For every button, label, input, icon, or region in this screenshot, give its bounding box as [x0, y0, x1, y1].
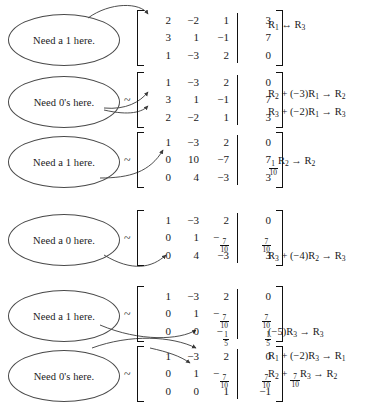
matrix-2: 1 −3 2 0 3 1 −1 7 2 −2 1 3	[137, 72, 283, 128]
matrix-4: 1 −3 2 0 0 1 −710 710 0 4 −3 3	[137, 210, 283, 266]
operation-label: R2 + (−3)R1 → R2	[268, 86, 346, 104]
operation-label: 110R2 → R2	[268, 153, 315, 176]
cell-r2c2: 1	[173, 305, 201, 322]
divider-spacer	[231, 323, 243, 340]
augment-divider-5	[231, 288, 243, 305]
operation-label: R1 ↔ R3	[268, 17, 305, 35]
cell-r2c1: 0	[147, 151, 173, 168]
tilde-4: ~	[124, 231, 131, 246]
operation-label: (−5)R3 → R3	[268, 324, 324, 342]
matrix-grid-6: 1 −3 2 0 0 1 −710 710 0 0 1 −1	[144, 346, 276, 402]
cell-r1c3: 1	[201, 12, 231, 29]
bracket-left-6	[137, 346, 144, 402]
bracket-left-2	[137, 72, 144, 128]
cell-r2c4-fraction: 710	[243, 229, 273, 246]
cell-r1c2: −3	[173, 288, 201, 305]
cell-r3c2: 0	[173, 383, 201, 400]
cell-r3c1: 0	[147, 247, 173, 264]
cell-r1c3: 2	[201, 288, 231, 305]
cell-r1c3: 2	[201, 134, 231, 151]
cell-r1c1: 1	[147, 288, 173, 305]
augment-divider-2	[231, 74, 243, 91]
augment-divider-1	[231, 12, 243, 29]
augment-divider-4	[231, 212, 243, 229]
matrix-grid-3: 1 −3 2 0 0 10 −7 7 0 4 −3 3	[144, 132, 276, 188]
cell-r3c2: −3	[173, 47, 201, 64]
operations-4: R3 + (−4)R2 → R3	[268, 248, 346, 266]
callout-label-3: Need a 1 here.	[8, 136, 120, 188]
bracket-left-5	[137, 286, 144, 342]
cell-r1c4: 0	[243, 212, 273, 229]
divider-spacer	[231, 47, 243, 64]
cell-r3c4: 0	[243, 47, 273, 64]
tilde-5: ~	[124, 307, 131, 322]
cell-r1c3: 2	[201, 348, 231, 365]
cell-r3c1: 1	[147, 47, 173, 64]
divider-spacer	[231, 91, 243, 108]
cell-r3c1: 0	[147, 383, 173, 400]
cell-r2c3-fraction: −710	[201, 305, 231, 322]
cell-r2c3: −1	[201, 29, 231, 46]
cell-r3c3: −3	[201, 169, 231, 186]
callout-2: Need 0's here.	[8, 76, 120, 128]
matrix-5: 1 −3 2 0 0 1 −710 710 0 0 −15 15	[137, 286, 283, 342]
divider-spacer	[231, 151, 243, 168]
operation-label: R1 + (−2)R3 → R1	[268, 348, 346, 366]
cell-r2c1: 0	[147, 305, 173, 322]
callout-label-4: Need a 0 here.	[8, 214, 120, 266]
cell-r2c3: −1	[201, 91, 231, 108]
cell-r2c3: −7	[201, 151, 231, 168]
cell-r1c4: 0	[243, 134, 273, 151]
augment-divider-6	[231, 348, 243, 365]
cell-r2c1: 3	[147, 91, 173, 108]
cell-r2c2: 1	[173, 229, 201, 246]
cell-r2c3-fraction: −710	[201, 365, 231, 382]
callout-label-1: Need a 1 here.	[8, 14, 120, 66]
cell-r1c1: 2	[147, 12, 173, 29]
cell-r3c2: 0	[173, 323, 201, 340]
divider-spacer	[231, 365, 243, 382]
callout-5: Need a 1 here.	[8, 290, 120, 342]
cell-r3c3: −3	[201, 247, 231, 264]
matrix-3: 1 −3 2 0 0 10 −7 7 0 4 −3 3	[137, 132, 283, 188]
callout-label-6: Need 0's here.	[8, 350, 120, 402]
divider-spacer	[231, 305, 243, 322]
matrix-6: 1 −3 2 0 0 1 −710 710 0 0 1 −1	[137, 346, 283, 402]
bracket-left-4	[137, 210, 144, 266]
cell-r2c2: 1	[173, 91, 201, 108]
augment-divider-3	[231, 134, 243, 151]
cell-r3c2: 4	[173, 247, 201, 264]
callout-4: Need a 0 here.	[8, 214, 120, 266]
cell-r3c1: 2	[147, 109, 173, 126]
divider-spacer	[231, 247, 243, 264]
callout-label-5: Need a 1 here.	[8, 290, 120, 342]
operation-label: R2 + 710R3 → R2	[268, 366, 346, 389]
operation-label: R3 + (−4)R2 → R3	[268, 248, 346, 266]
cell-r2c1: 0	[147, 229, 173, 246]
operation-label: R3 + (−2)R1 → R3	[268, 104, 346, 122]
cell-r2c1: 3	[147, 29, 173, 46]
callout-1: Need a 1 here.	[8, 14, 120, 66]
cell-r2c3-fraction: −710	[201, 229, 231, 246]
callout-label-2: Need 0's here.	[8, 76, 120, 128]
cell-r3c3: 2	[201, 47, 231, 64]
cell-r1c4: 0	[243, 288, 273, 305]
matrix-grid-2: 1 −3 2 0 3 1 −1 7 2 −2 1 3	[144, 72, 276, 128]
matrix-1: 2 −2 1 3 3 1 −1 7 1 −3 2 0	[137, 10, 283, 66]
cell-r1c2: −3	[173, 134, 201, 151]
operations-3: 110R2 → R2	[268, 153, 315, 176]
cell-r2c2: 1	[173, 29, 201, 46]
cell-r1c2: −3	[173, 348, 201, 365]
callout-3: Need a 1 here.	[8, 136, 120, 188]
cell-r3c2: −2	[173, 109, 201, 126]
divider-spacer	[231, 229, 243, 246]
operations-6: R1 + (−2)R3 → R1 R2 + 710R3 → R2	[268, 348, 346, 389]
cell-r2c2: 10	[173, 151, 201, 168]
cell-r3c3-fraction: −15	[201, 323, 231, 340]
cell-r1c1: 1	[147, 74, 173, 91]
tilde-3: ~	[124, 153, 131, 168]
operations-5: (−5)R3 → R3	[268, 324, 324, 342]
cell-r3c1: 0	[147, 323, 173, 340]
divider-spacer	[231, 169, 243, 186]
cell-r1c2: −3	[173, 212, 201, 229]
